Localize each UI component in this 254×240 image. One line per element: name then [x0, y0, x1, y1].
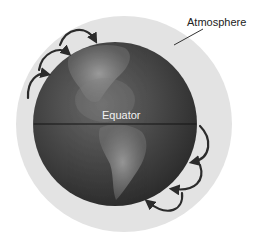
equator-label: Equator: [102, 109, 141, 121]
atmosphere-label: Atmosphere: [187, 16, 246, 28]
earth-globe: [33, 42, 197, 206]
